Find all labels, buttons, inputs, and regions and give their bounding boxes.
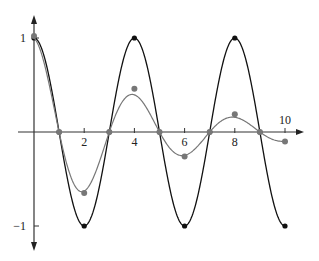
data-point bbox=[31, 33, 37, 39]
x-tick-label: 6 bbox=[182, 135, 188, 149]
data-point bbox=[157, 129, 163, 135]
y-tick-label: −1 bbox=[13, 219, 26, 233]
x-axis-arrow-icon bbox=[296, 129, 304, 135]
data-point bbox=[232, 111, 238, 117]
data-point bbox=[106, 129, 112, 135]
x-tick-label: 10 bbox=[279, 113, 291, 127]
series-layer bbox=[31, 33, 288, 228]
x-tick-label: 4 bbox=[131, 135, 137, 149]
data-point bbox=[132, 35, 137, 40]
data-point bbox=[182, 153, 188, 159]
data-point bbox=[282, 138, 288, 144]
data-point bbox=[182, 223, 187, 228]
series-line bbox=[34, 38, 285, 192]
chart: 2468101−1 bbox=[0, 0, 319, 261]
data-point bbox=[282, 223, 287, 228]
x-tick-label: 8 bbox=[232, 135, 238, 149]
y-axis-arrow-up-icon bbox=[31, 15, 37, 24]
data-point bbox=[257, 129, 263, 135]
data-point bbox=[131, 86, 137, 92]
data-point bbox=[56, 129, 62, 135]
data-point bbox=[207, 129, 213, 135]
x-tick-label: 2 bbox=[81, 135, 87, 149]
series-damped-cosine bbox=[31, 33, 288, 196]
y-tick-label: 1 bbox=[20, 31, 26, 45]
y-axis-arrow-down-icon bbox=[31, 242, 37, 251]
data-point bbox=[81, 190, 87, 196]
data-point bbox=[232, 35, 237, 40]
data-point bbox=[82, 223, 87, 228]
